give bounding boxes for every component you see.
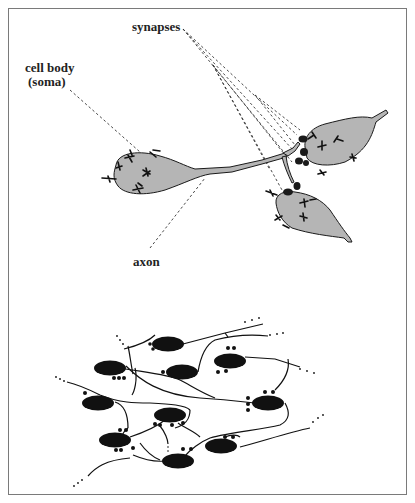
left-neuron bbox=[114, 153, 287, 194]
axon-label: axon bbox=[133, 255, 160, 269]
synapses-label: synapses bbox=[132, 20, 180, 34]
upper-right-neuron bbox=[305, 110, 388, 165]
leader-lines bbox=[70, 29, 300, 248]
synaptic-boutons-upper bbox=[295, 136, 309, 167]
cell-body-label: cell body bbox=[25, 61, 74, 75]
soma-label: (soma) bbox=[28, 75, 66, 89]
